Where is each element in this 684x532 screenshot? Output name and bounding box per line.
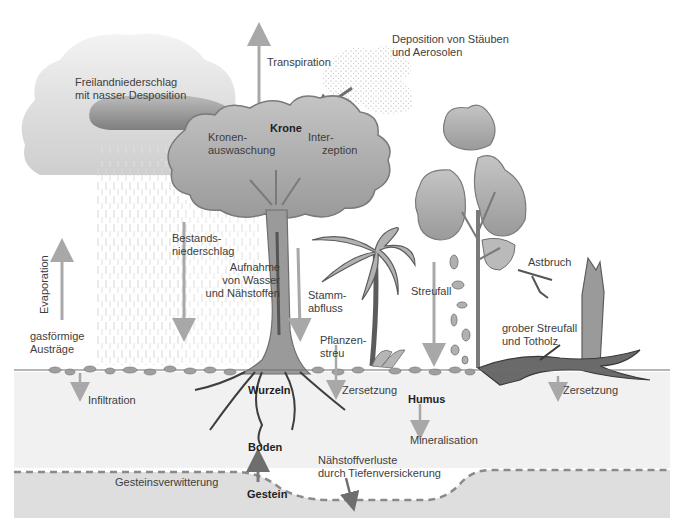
label-wurzeln: Wurzeln: [248, 384, 291, 397]
label-line: Kronen-: [208, 131, 275, 144]
forest-nutrient-cycle-diagram: Freilandniederschlag mit nasser Desposit…: [0, 0, 684, 532]
label-line: und Nähstoffen: [200, 287, 280, 300]
label-line: mit nasser Desposition: [75, 89, 186, 102]
label-deposition: Deposition von Stäuben und Aerosolen: [392, 33, 509, 59]
label-zersetzung-deadwood: Zersetzung: [563, 384, 618, 397]
label-line: durch Tiefenversickerung: [318, 467, 441, 480]
small-plant: [372, 350, 405, 368]
label-line: Aufnahme: [200, 261, 280, 274]
label-gestein: Gestein: [247, 488, 287, 501]
label-line: auswaschung: [208, 144, 275, 157]
label-stammabfluss: Stamm- abfluss: [308, 289, 347, 315]
label-line: Freilandniederschlag: [75, 76, 186, 89]
label-streufall: Streufall: [411, 285, 451, 298]
label-infiltration: Infiltration: [88, 394, 136, 407]
label-line: Nähstoffverluste: [318, 454, 441, 467]
label-bestandsniederschlag: Bestands- niederschlag: [172, 232, 234, 258]
label-line: von Wasser: [200, 274, 280, 287]
deep-leaching-arrow: [346, 478, 352, 502]
label-aufnahme: Aufnahme von Wasser und Nähstoffen: [200, 261, 280, 300]
label-astbruch: Astbruch: [528, 256, 571, 269]
label-interzeption: Inter- zeption: [308, 131, 357, 157]
dead-snag: [582, 258, 604, 365]
label-boden: Boden: [248, 441, 282, 454]
label-mineralisation: Mineralisation: [410, 434, 478, 447]
label-naehrstoffverluste: Nähstoffverluste durch Tiefenversickerun…: [318, 454, 441, 480]
label-transpiration: Transpiration: [267, 56, 331, 69]
label-pflanzenstreu: Pflanzen- streu: [320, 334, 366, 360]
label-line: Bestands-: [172, 232, 234, 245]
label-gesteinsverwitterung: Gesteinsverwitterung: [115, 476, 218, 489]
label-line: gasförmige: [30, 330, 84, 343]
label-line: niederschlag: [172, 245, 234, 258]
label-gasfoermige-austraege: gasförmige Austräge: [30, 330, 84, 356]
label-line: grober Streufall: [502, 322, 577, 335]
label-kronenauswaschung: Kronen- auswaschung: [208, 131, 275, 157]
right-tree-crown-top: [444, 105, 495, 150]
falling-leaves: [450, 255, 470, 364]
label-line: Pflanzen-: [320, 334, 366, 347]
label-grober-streufall: grober Streufall und Totholz: [502, 322, 577, 348]
label-freilandniederschlag: Freilandniederschlag mit nasser Desposit…: [75, 76, 186, 102]
right-tree-crown-left: [415, 170, 465, 240]
label-line: Stamm-: [308, 289, 347, 302]
label-humus: Humus: [408, 393, 445, 406]
label-evaporation: Evaporation: [38, 255, 51, 314]
label-line: und Totholz: [502, 335, 577, 348]
stemflow-arrow: [298, 248, 300, 330]
label-line: streu: [320, 347, 366, 360]
label-line: Austräge: [30, 343, 84, 356]
label-line: Inter-: [308, 131, 357, 144]
label-line: und Aerosolen: [392, 46, 509, 59]
label-line: Deposition von Stäuben: [392, 33, 509, 46]
broken-branch: [518, 270, 552, 298]
label-line: abfluss: [308, 302, 347, 315]
label-line: zeption: [308, 144, 357, 157]
label-zersetzung-litter: Zersetzung: [342, 384, 397, 397]
